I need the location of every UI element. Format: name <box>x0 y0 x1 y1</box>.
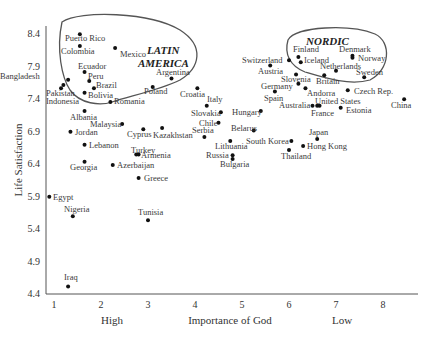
x-tick-label: 4 <box>193 299 198 310</box>
point-label: Lebanon <box>89 140 119 150</box>
point-label: Cyprus <box>127 129 152 139</box>
data-point <box>68 130 72 134</box>
data-point <box>231 153 235 157</box>
point-label: Norway <box>358 53 386 63</box>
y-tick-label: 4.4 <box>28 288 41 299</box>
data-point <box>113 46 117 50</box>
point-label: Serbia <box>192 125 214 135</box>
data-point <box>287 58 291 62</box>
y-tick-label: 7.9 <box>28 61 41 72</box>
point-label: Croatia <box>180 89 205 99</box>
region-label-latin-america-1: LATIN <box>146 44 180 56</box>
data-point <box>299 60 303 64</box>
point-label: Poland <box>144 86 168 96</box>
point-label: Azerbaijan <box>117 160 155 170</box>
point-label: Bolivia <box>88 90 113 100</box>
x-tick-label: 5 <box>240 299 245 310</box>
y-tick-label: 7.4 <box>28 93 41 104</box>
point-label: Iraq <box>64 272 78 282</box>
point-label: France <box>311 108 334 118</box>
data-point <box>350 56 354 60</box>
data-point <box>339 106 343 110</box>
point-label: Jordan <box>75 127 98 137</box>
data-point <box>137 176 141 180</box>
x-tick-label: 2 <box>99 299 104 310</box>
point-label: China <box>391 100 412 110</box>
data-point <box>346 88 350 92</box>
data-point <box>108 100 112 104</box>
y-tick-label: 5.9 <box>28 191 41 202</box>
data-point <box>71 214 75 218</box>
point-label: South Korea <box>246 136 289 146</box>
y-tick-label: 8.4 <box>28 28 41 39</box>
point-label: Egypt <box>53 192 74 202</box>
point-label: Australia <box>279 100 310 110</box>
point-label: Austria <box>258 66 283 76</box>
point-label: Greece <box>144 173 168 183</box>
point-label: Japan <box>309 127 329 137</box>
x-tick-label: 3 <box>146 299 151 310</box>
point-label: Germany <box>261 81 293 91</box>
point-label: Slovakia <box>191 108 221 118</box>
point-label: Colombia <box>61 46 95 56</box>
data-point <box>296 55 300 59</box>
x-tick-label: 8 <box>381 299 386 310</box>
region-label-nordic: NORDIC <box>305 35 349 47</box>
x-tick-label: 7 <box>334 299 339 310</box>
point-label: Czech Rep. <box>354 86 393 96</box>
y-tick-label: 6.4 <box>28 158 41 169</box>
point-label: Hungary <box>232 107 262 117</box>
data-point <box>66 78 70 82</box>
point-label: Switzerland <box>242 55 283 65</box>
point-label: Estonia <box>346 105 372 115</box>
y-axis-title: Life Satisfaction <box>12 123 24 197</box>
point-label: Nigeria <box>64 204 90 214</box>
point-label: Thailand <box>281 151 312 161</box>
data-point <box>202 135 206 139</box>
x-axis-end-label-high: High <box>101 314 124 326</box>
scatter-chart: 123456788.47.97.46.96.45.95.44.94.4 Puer… <box>0 0 433 339</box>
point-label: Sweden <box>356 67 384 77</box>
point-label: Netherlands <box>320 61 361 71</box>
y-tick-label: 6.9 <box>28 126 41 137</box>
point-label: Bangladesh <box>0 71 40 81</box>
point-label: Hong Kong <box>307 141 348 151</box>
point-label: Romania <box>114 96 145 106</box>
x-axis-title: Importance of God <box>188 314 272 326</box>
data-point <box>83 91 87 95</box>
point-label: Indonesia <box>46 96 79 106</box>
data-point <box>83 143 87 147</box>
y-tick-label: 4.9 <box>28 256 41 267</box>
point-label: Britain <box>316 76 340 86</box>
x-tick-label: 1 <box>52 299 57 310</box>
data-point <box>146 218 150 222</box>
data-point <box>289 139 293 143</box>
data-point <box>170 77 174 81</box>
data-point <box>61 83 65 87</box>
point-label: Brazil <box>96 80 117 90</box>
data-point <box>111 163 115 167</box>
data-point <box>66 285 70 289</box>
x-tick-label: 6 <box>287 299 292 310</box>
point-label: Puerto Rico <box>65 33 105 43</box>
point-label: Ecuador <box>78 61 106 71</box>
point-label: Georgia <box>70 162 97 172</box>
point-label: Tunisia <box>138 207 163 217</box>
data-point <box>301 144 305 148</box>
point-label: Kazakhstan <box>153 130 193 140</box>
region-label-latin-america-2: AMERICA <box>137 57 189 69</box>
point-label: Belarus <box>231 123 257 133</box>
point-label: Italy <box>207 94 223 104</box>
data-point <box>47 195 51 199</box>
x-axis-end-label-low: Low <box>332 314 352 326</box>
point-label: Bulgaria <box>220 159 249 169</box>
point-label: Armenia <box>141 150 171 160</box>
y-tick-label: 5.4 <box>28 223 41 234</box>
